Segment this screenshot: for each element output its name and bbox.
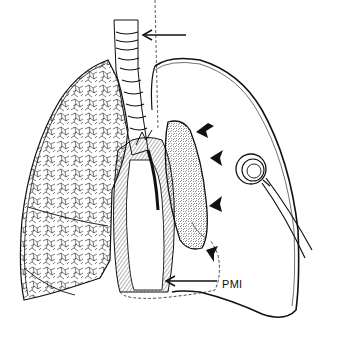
trachea-arrow <box>143 30 186 40</box>
stethoscope <box>236 154 312 258</box>
arrowhead-1 <box>196 123 214 138</box>
arrowhead-4 <box>206 246 218 262</box>
chest-anatomy-illustration <box>0 0 337 340</box>
arrowhead-3 <box>209 196 222 212</box>
pmi-label: PMI <box>222 278 242 290</box>
arrowhead-2 <box>210 150 223 166</box>
pmi-arrow <box>166 276 217 286</box>
right-lung <box>20 60 128 300</box>
